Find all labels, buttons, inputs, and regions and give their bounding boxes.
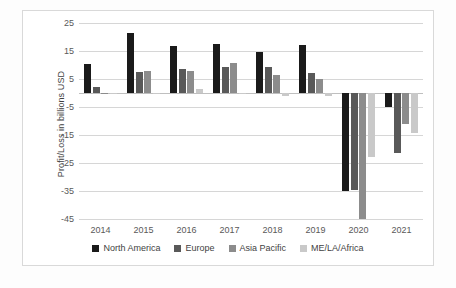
y-axis-tick-label: -35 bbox=[61, 186, 74, 196]
bar bbox=[273, 75, 280, 93]
bar-group: 2019 bbox=[294, 23, 337, 219]
x-axis-tick-label: 2019 bbox=[294, 225, 337, 235]
x-axis-tick-label: 2020 bbox=[337, 225, 380, 235]
bar bbox=[196, 89, 203, 93]
legend-item[interactable]: North America bbox=[92, 243, 160, 253]
bar bbox=[265, 67, 272, 93]
bar bbox=[308, 73, 315, 93]
bar bbox=[385, 93, 392, 107]
x-axis-tick-label: 2016 bbox=[165, 225, 208, 235]
bar-group: 2016 bbox=[165, 23, 208, 219]
legend-swatch-icon bbox=[300, 245, 307, 252]
y-axis-tick-label: 25 bbox=[64, 18, 74, 28]
y-axis-tick-label: 15 bbox=[64, 46, 74, 56]
bar-group: 2021 bbox=[380, 23, 423, 219]
bar bbox=[299, 45, 306, 93]
x-axis-tick-label: 2014 bbox=[79, 225, 122, 235]
bar bbox=[411, 93, 418, 133]
y-axis-tick-label: -15 bbox=[61, 130, 74, 140]
y-axis-tick-label: -45 bbox=[61, 214, 74, 224]
x-axis-line bbox=[79, 219, 423, 220]
bar bbox=[213, 44, 220, 93]
bar bbox=[187, 71, 194, 93]
bar bbox=[222, 67, 229, 93]
legend-swatch-icon bbox=[174, 245, 181, 252]
chart-legend: North AmericaEuropeAsia PacificME/LA/Afr… bbox=[23, 243, 433, 253]
bar-group: 2015 bbox=[122, 23, 165, 219]
y-axis-tick-label: 5 bbox=[69, 74, 74, 84]
y-axis-title: Profit/Loss in billions USD bbox=[56, 39, 66, 209]
chart-screenshot: Profit/Loss in billions USD 25155-5-15-2… bbox=[0, 0, 456, 288]
bar bbox=[93, 87, 100, 93]
legend-swatch-icon bbox=[92, 245, 99, 252]
x-axis-tick-label: 2017 bbox=[208, 225, 251, 235]
bar bbox=[179, 69, 186, 93]
bar bbox=[170, 46, 177, 93]
bar bbox=[394, 93, 401, 153]
bar bbox=[239, 93, 246, 94]
bar bbox=[282, 93, 289, 96]
x-axis-tick-label: 2018 bbox=[251, 225, 294, 235]
bar bbox=[342, 93, 349, 191]
bar-group: 2018 bbox=[251, 23, 294, 219]
bar-groups: 20142015201620172018201920202021 bbox=[79, 23, 423, 219]
plot-area: 25155-5-15-25-35-45 20142015201620172018… bbox=[79, 23, 423, 219]
bar bbox=[101, 93, 108, 94]
y-axis-tick-label: -25 bbox=[61, 158, 74, 168]
x-axis-tick-label: 2015 bbox=[122, 225, 165, 235]
bar bbox=[256, 52, 263, 93]
bar bbox=[127, 33, 134, 93]
bar-group: 2020 bbox=[337, 23, 380, 219]
bar bbox=[230, 63, 237, 93]
bar bbox=[325, 93, 332, 96]
bar-group: 2014 bbox=[79, 23, 122, 219]
bar bbox=[136, 72, 143, 93]
bar bbox=[110, 93, 117, 94]
legend-label: ME/LA/Africa bbox=[311, 243, 364, 253]
bar bbox=[84, 64, 91, 93]
y-axis-tick-label: -5 bbox=[66, 102, 74, 112]
chart-frame: Profit/Loss in billions USD 25155-5-15-2… bbox=[22, 10, 434, 266]
legend-item[interactable]: ME/LA/Africa bbox=[300, 243, 364, 253]
bar-group: 2017 bbox=[208, 23, 251, 219]
x-axis-tick-label: 2021 bbox=[380, 225, 423, 235]
legend-label: North America bbox=[103, 243, 160, 253]
bar bbox=[144, 71, 151, 93]
legend-label: Europe bbox=[185, 243, 214, 253]
bar bbox=[402, 93, 409, 124]
bar bbox=[351, 93, 358, 190]
legend-swatch-icon bbox=[229, 245, 236, 252]
bar bbox=[359, 93, 366, 219]
legend-label: Asia Pacific bbox=[240, 243, 287, 253]
bar bbox=[153, 93, 160, 94]
legend-item[interactable]: Europe bbox=[174, 243, 214, 253]
legend-item[interactable]: Asia Pacific bbox=[229, 243, 287, 253]
bar bbox=[368, 93, 375, 157]
bar bbox=[316, 79, 323, 93]
